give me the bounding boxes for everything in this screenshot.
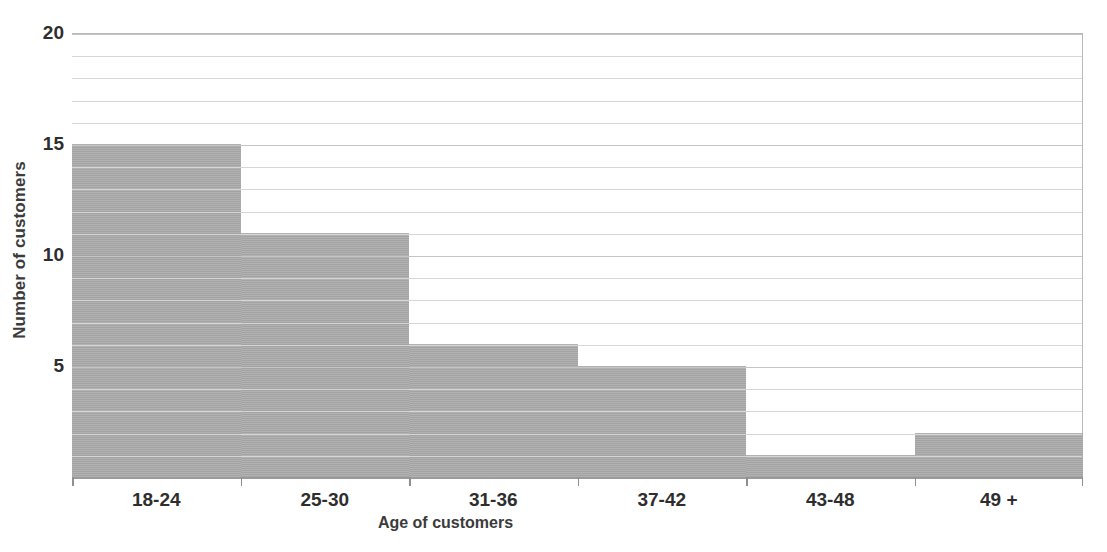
x-tick <box>1082 477 1084 486</box>
x-axis-ticks <box>72 477 1083 487</box>
x-tick-label-43-48: 43-48 <box>806 489 855 511</box>
x-axis-title-text: Age of customers <box>378 514 513 531</box>
x-tick-label-49: 49 + <box>980 489 1018 511</box>
x-tick-label-37-42: 37-42 <box>637 489 686 511</box>
x-tick-label-25-30: 25-30 <box>300 489 349 511</box>
y-tick-label-20: 20 <box>43 22 64 44</box>
x-tick <box>746 477 748 486</box>
x-tick <box>409 477 411 486</box>
bar-43-48 <box>746 455 915 477</box>
bar-49 <box>915 433 1084 477</box>
y-tick-label-15: 15 <box>43 133 64 155</box>
y-tick-label-10: 10 <box>43 244 64 266</box>
x-tick-label-31-36: 31-36 <box>469 489 518 511</box>
bar-18-24 <box>72 144 241 477</box>
x-tick <box>578 477 580 486</box>
x-axis-title: Age of customers <box>72 514 1083 532</box>
bar-25-30 <box>241 233 410 477</box>
x-tick <box>72 477 74 486</box>
x-tick-label-18-24: 18-24 <box>132 489 181 511</box>
x-tick <box>915 477 917 486</box>
x-tick <box>241 477 243 486</box>
y-tick-label-5: 5 <box>53 355 64 377</box>
y-axis-title-text: Number of customers <box>10 161 30 339</box>
histogram-figure: Number of customers 5101520 18-2425-3031… <box>0 0 1107 552</box>
bar-37-42 <box>578 366 747 477</box>
y-axis-tick-labels: 5101520 <box>28 0 64 552</box>
bar-series <box>72 34 1082 477</box>
bar-31-36 <box>409 344 578 477</box>
plot-area <box>72 33 1083 477</box>
